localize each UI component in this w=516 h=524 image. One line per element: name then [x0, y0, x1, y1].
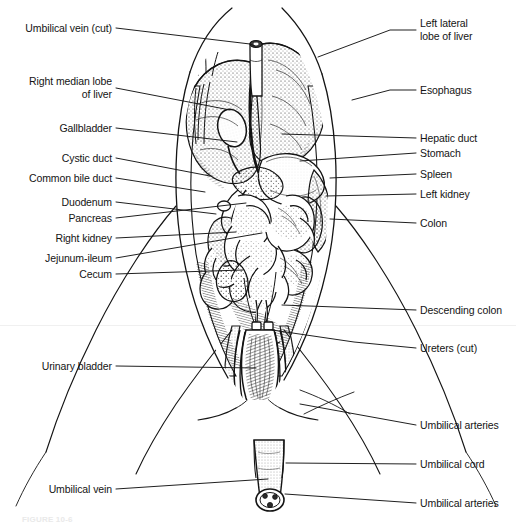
label-colon: Colon	[420, 217, 447, 229]
label-right-median-lobe-of-liver: Right median lobeof liver	[29, 75, 112, 100]
label-text: Gallbladder	[59, 122, 112, 134]
label-gallbladder: Gallbladder	[59, 122, 112, 134]
urinary-bladder-shape	[242, 330, 279, 424]
label-esophagus: Esophagus	[420, 84, 472, 96]
label-text: Pancreas	[68, 212, 112, 224]
label-pancreas: Pancreas	[68, 212, 112, 224]
leader-umbilical-vein	[116, 479, 268, 489]
label-text: Hepatic duct	[420, 132, 477, 144]
label-umbilical-arteries-lower: Umbilical arteries	[420, 497, 499, 509]
leader-umbilical-arteries-lower	[285, 494, 416, 503]
label-text: Left lateral	[420, 17, 472, 30]
label-urinary-bladder: Urinary bladder	[42, 360, 112, 372]
umbilical-cord-shape	[254, 440, 284, 511]
label-text: Umbilical vein	[49, 483, 112, 495]
label-cystic-duct: Cystic duct	[62, 152, 112, 164]
leader-colon	[330, 219, 416, 223]
label-jejunum-ileum: Jejunum-ileum	[45, 252, 112, 264]
label-text: Right kidney	[55, 232, 112, 244]
label-umbilical-cord: Umbilical cord	[420, 458, 485, 470]
label-left-kidney: Left kidney	[420, 188, 470, 200]
label-duodenum: Duodenum	[61, 196, 112, 208]
label-spleen: Spleen	[420, 168, 452, 180]
label-ureters-cut: Ureters (cut)	[420, 342, 477, 354]
label-text: Duodenum	[61, 196, 112, 208]
leader-common-bile-duct	[116, 178, 205, 192]
anatomy-figure: Umbilical vein (cut)Right median lobeof …	[0, 0, 516, 524]
label-text: Umbilical vein (cut)	[25, 22, 112, 34]
label-text: Cecum	[79, 268, 112, 280]
label-umbilical-arteries-upper: Umbilical arteries	[420, 419, 499, 431]
label-text: Colon	[420, 217, 447, 229]
label-text: Stomach	[420, 147, 461, 159]
leader-spleen	[330, 174, 416, 178]
label-stomach: Stomach	[420, 147, 461, 159]
label-umbilical-vein-cut: Umbilical vein (cut)	[25, 22, 112, 34]
label-cecum: Cecum	[79, 268, 112, 280]
label-left-lateral-lobe-of-liver: Left laterallobe of liver	[420, 17, 472, 42]
label-descending-colon: Descending colon	[420, 304, 502, 316]
label-common-bile-duct: Common bile duct	[29, 172, 112, 184]
label-text: Esophagus	[420, 84, 472, 96]
label-right-kidney: Right kidney	[55, 232, 112, 244]
label-text: Umbilical cord	[420, 458, 485, 470]
label-text: Spleen	[420, 168, 452, 180]
label-text: Descending colon	[420, 304, 502, 316]
label-hepatic-duct: Hepatic duct	[420, 132, 477, 144]
label-text: Ureters (cut)	[420, 342, 477, 354]
umbilical-vein-stump	[250, 41, 262, 96]
label-text-line2: lobe of liver	[420, 30, 472, 43]
label-text-line2: of liver	[29, 88, 112, 101]
label-text: Jejunum-ileum	[45, 252, 112, 264]
label-text: Right median lobe	[29, 75, 112, 88]
label-text: Umbilical arteries	[420, 419, 499, 431]
leader-left-kidney	[326, 194, 416, 196]
label-text: Urinary bladder	[42, 360, 112, 372]
label-text: Umbilical arteries	[420, 497, 499, 509]
label-text: Cystic duct	[62, 152, 112, 164]
label-text: Left kidney	[420, 188, 470, 200]
leader-umbilical-vein-cut	[116, 28, 255, 46]
label-umbilical-vein: Umbilical vein	[49, 483, 112, 495]
leader-umbilical-cord	[286, 463, 416, 464]
leader-left-lateral-lobe-of-liver	[318, 30, 416, 57]
leader-umbilical-arteries-upper	[300, 404, 416, 425]
leader-esophagus	[352, 90, 416, 100]
figure-caption: FIGURE 10-6	[22, 515, 73, 524]
label-text: Common bile duct	[29, 172, 112, 184]
